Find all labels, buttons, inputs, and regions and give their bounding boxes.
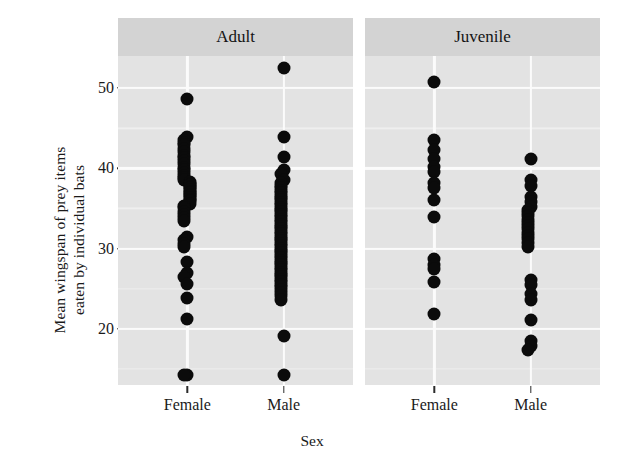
gridline-major: [365, 87, 600, 89]
gridline-major: [365, 167, 600, 169]
gridline-major: [365, 328, 600, 330]
gridline-minor: [365, 128, 600, 129]
y-tick-label: 40: [98, 159, 114, 177]
x-tick-label-male: Male: [514, 396, 547, 414]
y-tick-label: 20: [98, 320, 114, 338]
data-point: [178, 215, 191, 228]
data-point: [181, 292, 194, 305]
data-point: [277, 62, 290, 75]
data-point: [428, 308, 441, 321]
data-point: [521, 343, 534, 356]
data-point: [428, 193, 441, 206]
plot-area-juvenile: [365, 56, 600, 385]
figure-root: Mean wingspan of prey items eaten by ind…: [0, 0, 624, 469]
panel-adult: Adult: [118, 18, 353, 385]
data-point: [524, 293, 537, 306]
panel-juvenile: Juvenile: [365, 18, 600, 385]
x-tick-mark: [187, 386, 188, 393]
x-tick-label-female: Female: [411, 396, 458, 414]
data-point: [524, 314, 537, 327]
gridline-minor: [365, 208, 600, 209]
y-axis-title-line1: Mean wingspan of prey items: [51, 147, 70, 334]
strip-label-juvenile: Juvenile: [365, 18, 600, 56]
gridline-major: [365, 247, 600, 249]
data-point: [181, 277, 194, 290]
data-point: [428, 263, 441, 276]
gridline-major: [118, 328, 353, 330]
data-point: [428, 211, 441, 224]
gridline-minor: [118, 128, 353, 129]
data-point: [181, 313, 194, 326]
x-tick-mark: [283, 386, 284, 393]
y-tick-label: 30: [98, 240, 114, 258]
data-point: [428, 76, 441, 89]
data-point: [274, 293, 287, 306]
data-point: [277, 131, 290, 144]
gridline-minor: [118, 368, 353, 369]
gridline-minor: [118, 288, 353, 289]
x-axis-title: Sex: [0, 432, 624, 450]
data-point: [521, 240, 534, 253]
gridline-minor: [365, 288, 600, 289]
data-point: [428, 276, 441, 289]
data-point: [277, 151, 290, 164]
gridline-major: [118, 87, 353, 89]
strip-label-adult: Adult: [118, 18, 353, 56]
gridline-minor: [365, 368, 600, 369]
x-tick-mark: [434, 386, 435, 393]
data-point: [277, 330, 290, 343]
y-axis-title-line2: eaten by individual bats: [70, 165, 89, 315]
data-point: [181, 92, 194, 105]
x-tick-label-female: Female: [164, 396, 211, 414]
x-tick-mark: [530, 386, 531, 393]
data-point: [277, 368, 290, 381]
data-point: [178, 368, 191, 381]
data-point: [178, 240, 191, 253]
y-tick-label: 50: [98, 79, 114, 97]
x-tick-label-male: Male: [267, 396, 300, 414]
gridline-major: [118, 167, 353, 169]
gridline-major: [118, 247, 353, 249]
data-point: [524, 152, 537, 165]
gridline-minor: [118, 208, 353, 209]
plot-area-adult: [118, 56, 353, 385]
